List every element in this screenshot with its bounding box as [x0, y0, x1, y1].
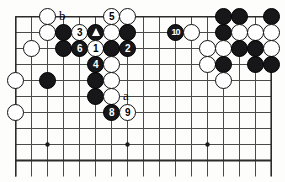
white-stone: [199, 40, 216, 57]
white-stone: [7, 104, 24, 121]
black-stone: [119, 24, 136, 41]
black-stone: [55, 24, 72, 41]
white-stone: [183, 24, 200, 41]
triangle-icon: [92, 28, 100, 36]
move-stone-4: 4: [87, 56, 104, 73]
black-stone: [247, 40, 264, 57]
black-stone: [87, 72, 104, 89]
go-board-diagram: 5310612489 ba: [0, 0, 285, 182]
white-stone: [215, 72, 232, 89]
white-stone: [103, 72, 120, 89]
white-stone: [215, 40, 232, 57]
marked-stone: [87, 24, 104, 41]
move-number: 8: [109, 107, 114, 117]
move-number: 3: [77, 27, 82, 37]
white-stone: [7, 72, 24, 89]
black-stone: [39, 72, 56, 89]
white-stone: [103, 56, 120, 73]
move-number: 10: [171, 28, 179, 37]
board-area: 5310612489 ba: [15, 16, 268, 160]
black-stone: [215, 8, 232, 25]
move-number: 4: [93, 59, 98, 69]
white-stone: [119, 8, 136, 25]
black-stone: [87, 88, 104, 105]
move-stone-5: 5: [103, 8, 120, 25]
move-stone-9: 9: [119, 104, 136, 121]
white-stone: [263, 40, 280, 57]
move-number: 6: [77, 43, 82, 53]
board-grid: [15, 16, 272, 177]
white-stone: [199, 56, 216, 73]
move-stone-2: 2: [119, 40, 136, 57]
black-stone: [247, 56, 264, 73]
white-stone: [23, 40, 40, 57]
move-stone-3: 3: [71, 24, 88, 41]
point-label-a: a: [123, 89, 129, 102]
white-stone: [247, 24, 264, 41]
white-stone: [39, 24, 56, 41]
move-number: 2: [125, 43, 130, 53]
move-number: 9: [125, 107, 130, 117]
white-stone: [39, 8, 56, 25]
black-stone: [55, 40, 72, 57]
move-number: 5: [109, 11, 114, 21]
black-stone: [215, 24, 232, 41]
move-stone-6: 6: [71, 40, 88, 57]
white-stone: [263, 24, 280, 41]
move-stone-1: 1: [87, 40, 104, 57]
black-stone: [215, 56, 232, 73]
black-stone: [231, 8, 248, 25]
black-stone: [263, 8, 280, 25]
move-number: 1: [93, 43, 98, 53]
black-stone: [263, 56, 280, 73]
white-stone: [103, 88, 120, 105]
move-stone-8: 8: [103, 104, 120, 121]
move-stone-10: 10: [167, 24, 184, 41]
black-stone: [103, 40, 120, 57]
white-stone: [103, 24, 120, 41]
white-stone: [231, 24, 248, 41]
point-label-b: b: [59, 9, 66, 22]
black-stone: [231, 40, 248, 57]
